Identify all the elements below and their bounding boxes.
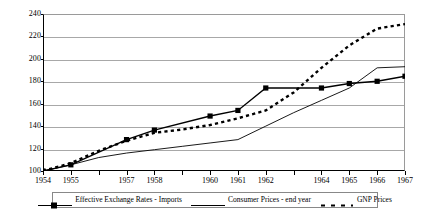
x-axis-tick-mark bbox=[405, 171, 406, 175]
x-axis-tick-label: 1962 bbox=[258, 176, 274, 185]
series-marker bbox=[375, 79, 380, 84]
x-axis: 1954195519571958196019611962196419651966… bbox=[43, 171, 405, 191]
legend-label-consumer-prices: Consumer Prices - end year bbox=[228, 196, 311, 204]
x-axis-tick-mark bbox=[99, 171, 100, 175]
y-axis-tick-label: 220 bbox=[7, 32, 41, 40]
x-axis-tick-mark bbox=[349, 171, 350, 175]
y-axis-tick-label: 160 bbox=[7, 100, 41, 108]
series-line bbox=[43, 24, 405, 171]
y-axis-tick-label: 140 bbox=[7, 122, 41, 130]
y-axis-tick-label: 240 bbox=[7, 10, 41, 18]
legend-swatch-dashed-line bbox=[320, 196, 354, 205]
x-axis-tick-mark bbox=[266, 171, 267, 175]
x-axis-tick-label: 1967 bbox=[397, 176, 413, 185]
series-marker bbox=[263, 85, 268, 90]
series-marker bbox=[235, 108, 240, 113]
x-axis-tick-mark bbox=[321, 171, 322, 175]
x-axis-tick-mark bbox=[377, 171, 378, 175]
legend-item-consumer-prices: Consumer Prices - end year bbox=[191, 196, 311, 205]
y-axis-tick-label: 180 bbox=[7, 77, 41, 85]
x-axis-tick-label: 1965 bbox=[341, 176, 357, 185]
series-line bbox=[43, 76, 405, 171]
legend-item-effective-exchange-rates: Effective Exchange Rates - Imports bbox=[38, 196, 182, 205]
x-axis-tick-label: 1954 bbox=[35, 176, 51, 185]
x-axis-tick-label: 1964 bbox=[313, 176, 329, 185]
y-axis-tick-label: 100 bbox=[7, 167, 41, 175]
x-axis-tick-mark bbox=[154, 171, 155, 175]
legend-label-gnp-prices: GNP Prices bbox=[357, 196, 392, 204]
x-axis-tick-mark bbox=[71, 171, 72, 175]
x-axis-tick-mark bbox=[294, 171, 295, 175]
x-axis-tick-label: 1961 bbox=[230, 176, 246, 185]
x-axis-tick-label: 1957 bbox=[119, 176, 135, 185]
x-axis-tick-mark bbox=[43, 171, 44, 175]
x-axis-tick-label: 1958 bbox=[146, 176, 162, 185]
legend-swatch-solid-line bbox=[191, 196, 225, 205]
y-axis-tick-label: 120 bbox=[7, 145, 41, 153]
series-marker bbox=[402, 74, 405, 79]
x-axis-tick-mark bbox=[210, 171, 211, 175]
series-marker bbox=[347, 81, 352, 86]
series-marker bbox=[319, 85, 324, 90]
x-axis-tick-label: 1960 bbox=[202, 176, 218, 185]
x-axis-tick-mark bbox=[127, 171, 128, 175]
line-chart: 100120140160180200220240 195419551957195… bbox=[0, 0, 421, 218]
series-marker bbox=[207, 113, 212, 118]
x-axis-tick-label: 1966 bbox=[369, 176, 385, 185]
y-axis-tick-label: 200 bbox=[7, 55, 41, 63]
legend-swatch-line-marker bbox=[38, 196, 72, 205]
x-axis-tick-mark bbox=[182, 171, 183, 175]
legend-item-gnp-prices: GNP Prices bbox=[320, 196, 392, 205]
chart-legend: Effective Exchange Rates - Imports Consu… bbox=[52, 192, 378, 208]
legend-label-effective-exchange-rates: Effective Exchange Rates - Imports bbox=[75, 196, 182, 204]
x-axis-tick-mark bbox=[238, 171, 239, 175]
x-axis-tick-label: 1955 bbox=[63, 176, 79, 185]
y-axis: 100120140160180200220240 bbox=[0, 0, 41, 218]
series-layer bbox=[43, 14, 405, 171]
